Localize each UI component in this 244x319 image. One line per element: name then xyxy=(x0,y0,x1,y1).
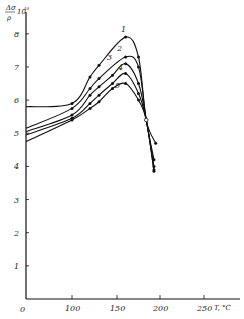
x-ticks: 100150200250 xyxy=(65,295,212,313)
data-point xyxy=(71,118,74,121)
data-point xyxy=(71,102,74,105)
curve-label-3: 3 xyxy=(107,53,112,62)
data-point xyxy=(89,75,92,78)
data-point xyxy=(124,56,127,59)
data-point xyxy=(137,56,140,59)
chart-canvas: 12345678 100150200250 12345 Δσ ρ 10 10 0… xyxy=(0,0,244,319)
data-point xyxy=(111,82,114,85)
data-point xyxy=(111,74,114,77)
curve-label-5: 5 xyxy=(115,81,120,90)
data-point xyxy=(98,77,101,80)
data-point xyxy=(124,82,127,85)
data-point xyxy=(124,72,127,75)
origin-label: 0 xyxy=(20,305,25,314)
x-tick-label: 200 xyxy=(152,304,168,313)
data-point xyxy=(152,170,155,173)
x-axis-title: T, °C xyxy=(214,304,232,312)
x-tick-label: 150 xyxy=(110,304,125,313)
data-point xyxy=(98,94,101,97)
intersection-marker xyxy=(144,118,148,122)
ylabel-denominator: ρ xyxy=(6,14,12,22)
y-tick-label: 4 xyxy=(13,162,19,171)
x-tick-label: 100 xyxy=(65,304,80,313)
curve-label-1: 1 xyxy=(121,25,126,34)
curves xyxy=(26,36,157,173)
data-point xyxy=(89,102,92,105)
data-point xyxy=(71,114,74,117)
data-point xyxy=(124,62,127,65)
y-tick-label: 2 xyxy=(13,229,19,238)
data-point xyxy=(98,100,101,103)
data-point xyxy=(137,99,140,102)
x-tick-label: 250 xyxy=(196,304,212,313)
ylabel-exponent: 10 xyxy=(24,6,30,11)
curve-label-4: 4 xyxy=(117,63,123,72)
y-tick-label: 5 xyxy=(14,129,19,138)
curve-3 xyxy=(26,63,154,166)
data-point xyxy=(89,94,92,97)
curve-label-2: 2 xyxy=(116,44,122,53)
data-point xyxy=(98,85,101,88)
data-point xyxy=(137,82,140,85)
y-tick-label: 6 xyxy=(14,96,19,105)
data-point xyxy=(89,107,92,110)
y-tick-label: 8 xyxy=(14,30,19,39)
data-point xyxy=(71,107,74,110)
data-point xyxy=(124,36,127,39)
data-point xyxy=(137,92,140,95)
ylabel-numerator: Δσ xyxy=(5,4,16,12)
y-tick-label: 1 xyxy=(14,262,19,271)
data-point xyxy=(154,142,157,145)
data-point xyxy=(137,65,140,68)
y-tick-label: 7 xyxy=(14,63,20,72)
data-point xyxy=(98,64,101,67)
data-point xyxy=(89,87,92,90)
y-tick-label: 3 xyxy=(14,196,19,205)
curve-1 xyxy=(26,37,156,143)
data-point xyxy=(111,87,114,90)
axes xyxy=(26,12,240,299)
